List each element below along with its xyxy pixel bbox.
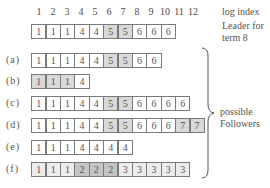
log-entry: 5 <box>118 53 133 68</box>
follower-log-b: 1114 <box>32 74 90 88</box>
follower-label-e: (e) <box>6 141 30 152</box>
log-entry: 2 <box>74 162 89 177</box>
log-entry: 3 <box>161 162 176 177</box>
follower-log-f: 11122233333 <box>32 162 190 176</box>
log-entry: 4 <box>74 53 89 68</box>
log-entry: 4 <box>89 140 104 155</box>
log-entry: 6 <box>132 96 147 111</box>
log-entry: 4 <box>74 96 89 111</box>
log-index-12: 12 <box>186 6 200 17</box>
log-entry: 4 <box>74 140 89 155</box>
log-entry: 5 <box>103 96 118 111</box>
log-entry: 4 <box>89 24 104 39</box>
log-entry: 1 <box>60 74 75 89</box>
follower-label-c: (c) <box>6 97 30 108</box>
log-entry: 7 <box>175 118 190 133</box>
log-entry: 4 <box>74 118 89 133</box>
log-entry: 3 <box>132 162 147 177</box>
log-entry: 1 <box>46 24 61 39</box>
log-entry: 4 <box>103 140 118 155</box>
log-index-4: 4 <box>74 6 88 17</box>
log-entry: 1 <box>60 53 75 68</box>
log-entry: 4 <box>74 24 89 39</box>
follower-log-d: 111445566677 <box>32 118 205 132</box>
log-entry: 1 <box>46 74 61 89</box>
log-entry: 6 <box>146 96 161 111</box>
log-entry: 6 <box>161 24 176 39</box>
log-entry: 4 <box>118 140 133 155</box>
follower-label-d: (d) <box>6 119 30 130</box>
log-entry: 1 <box>60 24 75 39</box>
log-entry: 4 <box>89 96 104 111</box>
log-entry: 1 <box>31 140 46 155</box>
log-index-label: log index <box>222 6 260 18</box>
log-entry: 2 <box>103 162 118 177</box>
log-entry: 1 <box>60 96 75 111</box>
log-entry: 4 <box>74 74 89 89</box>
log-entry: 1 <box>31 96 46 111</box>
log-entry: 1 <box>46 53 61 68</box>
log-entry: 4 <box>89 118 104 133</box>
follower-log-c: 11144556666 <box>32 96 190 110</box>
log-entry: 6 <box>132 24 147 39</box>
log-entry: 5 <box>103 118 118 133</box>
log-entry: 5 <box>103 24 118 39</box>
log-entry: 6 <box>146 24 161 39</box>
log-entry: 1 <box>46 162 61 177</box>
log-entry: 1 <box>31 53 46 68</box>
log-entry: 6 <box>146 53 161 68</box>
possible-followers-line1: possible <box>220 106 253 118</box>
log-index-9: 9 <box>144 6 158 17</box>
log-entry: 6 <box>146 118 161 133</box>
log-entry: 6 <box>132 118 147 133</box>
log-entry: 3 <box>118 162 133 177</box>
log-entry: 1 <box>31 162 46 177</box>
follower-label-a: (a) <box>6 54 30 65</box>
log-index-5: 5 <box>88 6 102 17</box>
log-entry: 1 <box>31 24 46 39</box>
leader-label-line2: term 8 <box>222 32 248 44</box>
log-entry: 1 <box>60 118 75 133</box>
log-entry: 3 <box>175 162 190 177</box>
log-entry: 2 <box>89 162 104 177</box>
leader-log: 1114455666 <box>32 24 176 38</box>
log-index-1: 1 <box>32 6 46 17</box>
possible-followers-line2: Followers <box>220 118 260 130</box>
log-index-7: 7 <box>116 6 130 17</box>
log-entry: 3 <box>146 162 161 177</box>
log-entry: 1 <box>46 118 61 133</box>
log-entry: 5 <box>118 96 133 111</box>
log-entry: 5 <box>103 53 118 68</box>
curly-brace-icon <box>200 46 220 180</box>
leader-label-line1: Leader for <box>222 20 264 32</box>
log-index-2: 2 <box>46 6 60 17</box>
follower-label-f: (f) <box>6 163 30 174</box>
log-entry: 6 <box>161 118 176 133</box>
follower-log-a: 111445566 <box>32 53 162 67</box>
log-entry: 4 <box>89 53 104 68</box>
log-entry: 6 <box>161 96 176 111</box>
log-entry: 5 <box>118 24 133 39</box>
log-entry: 5 <box>118 118 133 133</box>
log-index-8: 8 <box>130 6 144 17</box>
log-index-10: 10 <box>158 6 172 17</box>
log-entry: 6 <box>175 96 190 111</box>
log-index-6: 6 <box>102 6 116 17</box>
log-entry: 1 <box>60 162 75 177</box>
follower-label-b: (b) <box>6 75 30 86</box>
log-entry: 1 <box>60 140 75 155</box>
log-entry: 1 <box>46 140 61 155</box>
log-entry: 1 <box>31 118 46 133</box>
log-entry: 1 <box>31 74 46 89</box>
log-entry: 1 <box>46 96 61 111</box>
log-entry: 6 <box>132 53 147 68</box>
log-index-3: 3 <box>60 6 74 17</box>
follower-log-e: 1114444 <box>32 140 133 154</box>
log-index-11: 11 <box>172 6 186 17</box>
